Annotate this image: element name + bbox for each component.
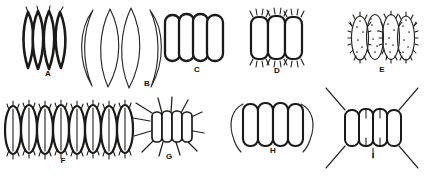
figure-c-cell-1 — [165, 15, 180, 61]
figure-h-cell-4 — [288, 104, 303, 146]
figure-h-cell-3 — [273, 103, 288, 146]
figure-label-a: A — [45, 69, 51, 78]
figure-g-cell-4 — [182, 112, 192, 142]
figure-d-cell-1 — [251, 17, 268, 59]
figure-i-cell-4 — [387, 110, 401, 146]
figure-c-cell-4 — [207, 15, 223, 61]
figure-g-cell-3 — [172, 111, 182, 142]
figure-c-cell-3 — [193, 14, 208, 61]
figure-d-cell-2 — [268, 16, 285, 59]
figure-a-cell-4 — [56, 12, 66, 68]
plate-canvas: A B C D — [0, 0, 433, 178]
figure-label-h: H — [270, 146, 276, 155]
figure-a-cell-2 — [33, 11, 44, 69]
figure-g-cell-2 — [162, 111, 172, 142]
figure-g-cell-1 — [152, 112, 162, 142]
figure-label-b: B — [144, 79, 150, 88]
figure-label-i: I — [372, 151, 374, 160]
figure-a-cell-3 — [44, 11, 55, 69]
figure-h-cell-1 — [243, 104, 258, 146]
figure-label-d: D — [274, 66, 280, 75]
figure-label-g: G — [166, 152, 172, 161]
figure-c-cell-2 — [179, 14, 194, 61]
figure-i-cell-1 — [345, 110, 359, 146]
figure-d-cell-3 — [285, 17, 302, 59]
figure-label-e: E — [379, 65, 385, 74]
figure-h-cell-2 — [258, 103, 273, 146]
illustration-plate: A B C D — [0, 0, 433, 178]
figure-label-f: F — [61, 156, 66, 165]
figure-label-c: C — [194, 65, 200, 74]
